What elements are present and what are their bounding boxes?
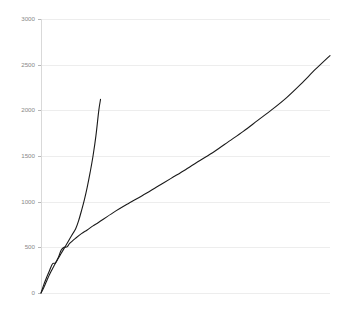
- y-axis-tick-label: 1000: [21, 198, 35, 205]
- y-axis-tick-label: 2000: [21, 106, 35, 113]
- y-axis-tick-label: 3000: [21, 15, 35, 22]
- y-axis-tick-label: 0: [32, 289, 36, 296]
- y-axis-tick-label: 500: [25, 243, 36, 250]
- y-axis-tick-label: 1500: [21, 152, 35, 159]
- chart-container: 050010001500200025003000: [0, 0, 345, 311]
- line-chart: 050010001500200025003000: [0, 0, 345, 311]
- y-axis-tick-label: 2500: [21, 61, 35, 68]
